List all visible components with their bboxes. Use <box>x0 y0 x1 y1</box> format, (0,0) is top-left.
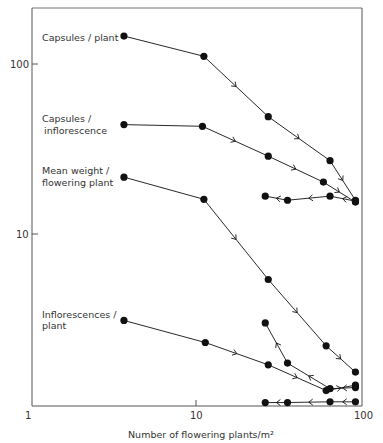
data-point <box>200 53 207 60</box>
series-capsules-plant <box>120 32 359 203</box>
label-mean-weight-1: Mean weight / <box>42 165 110 176</box>
direction-arrow-icon <box>338 175 343 180</box>
data-point <box>202 339 209 346</box>
data-point <box>284 399 291 406</box>
series-capsules-inflorescence <box>120 121 359 206</box>
series-inflorescences-plant-return-path <box>262 319 359 392</box>
data-point <box>320 178 327 185</box>
x-tick-10: 10 <box>190 410 203 421</box>
series-segment <box>124 177 204 199</box>
plot-frame <box>32 8 362 406</box>
series-segment <box>124 320 205 342</box>
data-point <box>262 399 269 406</box>
data-point <box>200 196 207 203</box>
label-capsules-infl-1: Capsules / <box>42 113 92 124</box>
x-tick-100: 100 <box>354 410 373 421</box>
data-point <box>120 121 127 128</box>
data-point <box>265 361 272 368</box>
data-point <box>265 276 272 283</box>
series-labels: Capsules / plant Capsules / inflorescenc… <box>42 32 119 331</box>
data-point <box>262 193 269 200</box>
data-point <box>199 123 206 130</box>
y-tick-100: 100 <box>10 59 29 70</box>
series-segment <box>124 36 204 56</box>
series-layer <box>120 32 359 406</box>
data-point <box>120 317 127 324</box>
data-point <box>326 193 333 200</box>
data-point <box>326 385 333 392</box>
series-segment <box>124 125 203 127</box>
label-capsules-infl-2: inflorescence <box>44 125 107 136</box>
data-point <box>284 360 291 367</box>
data-point <box>265 113 272 120</box>
data-point <box>326 398 333 405</box>
data-point <box>284 197 291 204</box>
chart-canvas: 100 10 1 10 100 Number of flowering plan… <box>0 0 383 443</box>
label-infl-plant-1: Inflorescences / <box>42 309 117 320</box>
data-point <box>265 153 272 160</box>
label-mean-weight-2: flowering plant <box>42 177 114 188</box>
x-tick-1: 1 <box>25 410 31 421</box>
series-capsules-inflorescence-return-path <box>262 193 359 205</box>
x-axis-title: Number of flowering plants/m² <box>128 429 274 440</box>
label-infl-plant-2: plant <box>42 320 67 331</box>
data-point <box>326 157 333 164</box>
data-point <box>352 384 359 391</box>
data-point <box>352 398 359 405</box>
series-inflorescences-plant <box>120 317 359 394</box>
data-point <box>352 369 359 376</box>
data-point <box>120 32 127 39</box>
series-mean-weight-flowering-plant <box>120 174 359 376</box>
data-point <box>262 319 269 326</box>
label-capsules-plant: Capsules / plant <box>42 32 119 43</box>
y-tick-10: 10 <box>16 229 29 240</box>
data-point <box>120 174 127 181</box>
series-inflorescences-plant-bottom-return-path <box>262 398 359 406</box>
data-point <box>323 342 330 349</box>
data-point <box>352 198 359 205</box>
y-axis: 100 10 <box>10 59 38 240</box>
